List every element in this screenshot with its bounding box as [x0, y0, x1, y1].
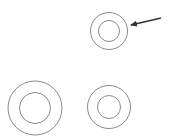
ring-bottom-right: [88, 86, 131, 129]
rings-group: [8, 13, 131, 136]
inner-circle: [98, 96, 121, 119]
inner-circle: [99, 21, 120, 42]
outer-circle: [8, 81, 62, 135]
inner-circle: [20, 93, 51, 124]
pointer-arrow-icon: [131, 18, 161, 25]
concentric-rings-diagram: [0, 0, 173, 138]
ring-bottom-left: [8, 81, 62, 135]
ring-top-right: [91, 13, 128, 50]
outer-circle: [91, 13, 128, 50]
outer-circle: [88, 86, 131, 129]
